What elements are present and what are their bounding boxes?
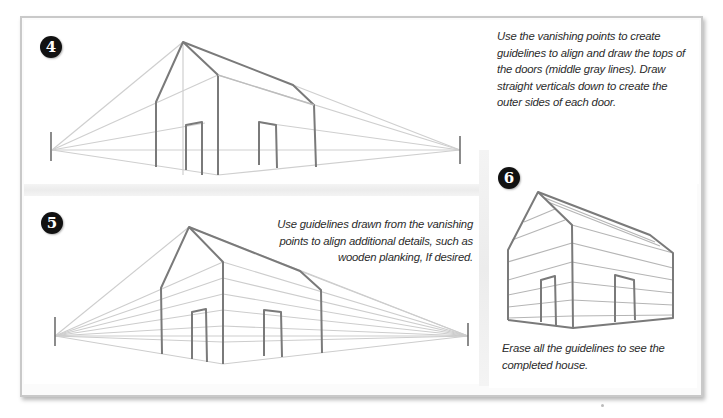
step-6-drawing — [508, 192, 673, 328]
step-6-badge: 6 — [498, 167, 520, 189]
step-4-drawing — [51, 42, 460, 175]
step-5-caption: Use guidelines drawn from the vanishing … — [268, 216, 473, 266]
step-6-caption: Erase all the guidelines to see the comp… — [502, 340, 682, 373]
page-marker — [601, 404, 604, 407]
step-4-caption: Use the vanishing points to create guide… — [497, 28, 687, 111]
step-5-badge: 5 — [41, 212, 63, 234]
step-4-badge: 4 — [40, 36, 62, 58]
